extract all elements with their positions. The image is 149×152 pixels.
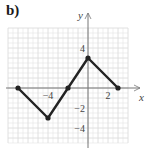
x-tick-label: 2 bbox=[106, 90, 111, 101]
x-axis-label: x bbox=[138, 91, 144, 103]
data-point-marker bbox=[85, 55, 90, 60]
data-point-marker bbox=[115, 85, 120, 90]
y-tick-label: 4 bbox=[80, 43, 85, 54]
data-point-marker bbox=[15, 85, 20, 90]
y-tick-label: −4 bbox=[74, 123, 85, 134]
data-point-marker bbox=[65, 85, 70, 90]
y-axis-label: y bbox=[77, 9, 83, 21]
data-point-marker bbox=[45, 115, 50, 120]
y-tick-label: −2 bbox=[74, 103, 85, 114]
coordinate-plot: xy −424−2−4 bbox=[0, 0, 149, 152]
x-tick-label: −4 bbox=[43, 90, 54, 101]
